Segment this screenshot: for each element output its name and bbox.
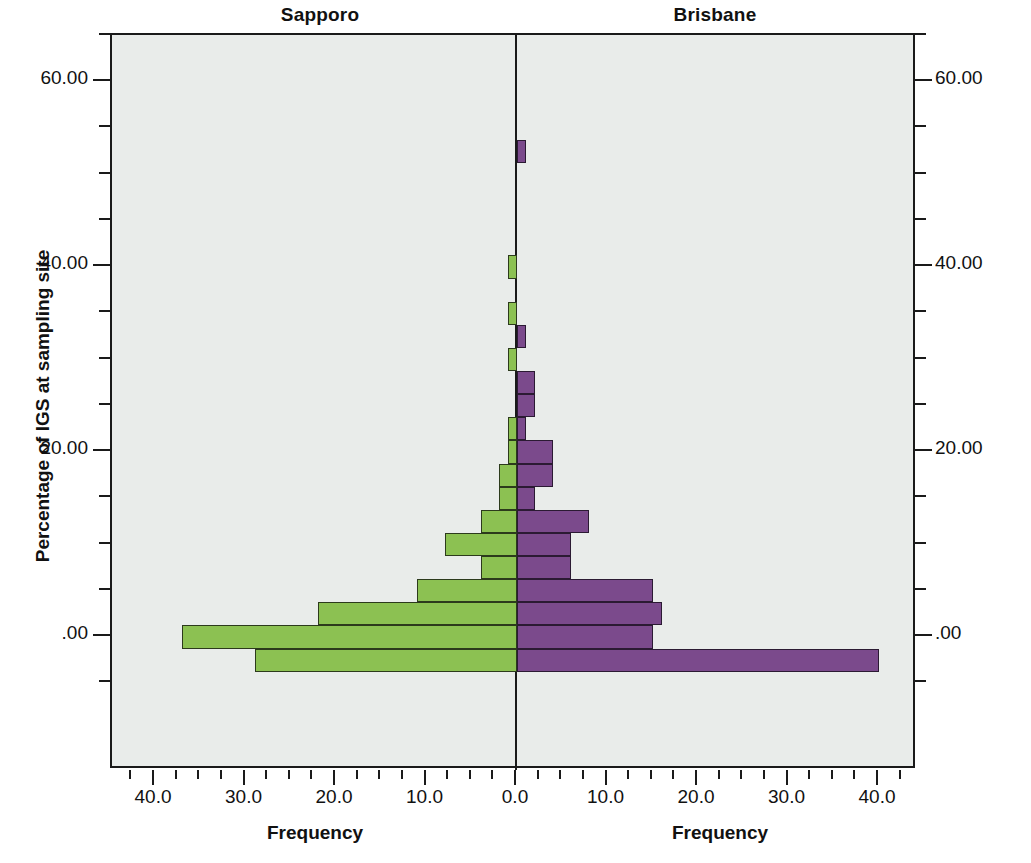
x-axis-minor-tick [808,770,810,779]
y-axis-minor-tick [99,172,110,174]
y-axis-minor-tick [915,125,926,127]
y-axis-major-tick [93,449,110,451]
bar-sapporo [508,255,517,278]
bar-brisbane [517,510,589,533]
y-axis-tick-label-right: 20.00 [935,437,1013,459]
x-axis-tick-label-center: 0.0 [482,786,548,808]
bar-brisbane [517,533,571,556]
x-axis-minor-tick [469,770,471,779]
x-axis-major-tick [243,770,245,785]
y-axis-major-tick [915,264,932,266]
bar-sapporo [499,487,517,510]
x-axis-minor-tick [378,770,380,779]
panel-title-right: Brisbane [600,4,830,26]
x-axis-minor-tick [650,770,652,779]
y-axis-tick-label-right: 60.00 [935,67,1013,89]
x-axis-minor-tick [356,770,358,779]
x-axis-major-tick [876,770,878,785]
x-axis-tick-label-right: 10.0 [573,786,639,808]
bar-sapporo [417,579,517,602]
x-axis-minor-tick [899,770,901,779]
bar-brisbane [517,487,535,510]
y-axis-major-tick [93,634,110,636]
bar-sapporo [481,556,517,579]
y-axis-minor-tick [99,357,110,359]
x-axis-minor-tick [582,770,584,779]
y-axis-minor-tick [915,218,926,220]
plot-area [110,33,915,768]
y-axis-title-left: Percentage of IGS at sampling site [32,246,54,566]
x-axis-minor-tick [446,770,448,779]
x-axis-tick-label-left: 30.0 [211,786,277,808]
y-axis-minor-tick [99,403,110,405]
x-axis-minor-tick [740,770,742,779]
x-axis-minor-tick [220,770,222,779]
x-axis-minor-tick [265,770,267,779]
x-axis-major-tick [695,770,697,785]
bar-brisbane [517,394,535,417]
y-axis-minor-tick [99,125,110,127]
x-axis-tick-label-right: 20.0 [663,786,729,808]
y-axis-minor-tick [915,172,926,174]
y-axis-minor-tick [99,680,110,682]
bar-sapporo [508,440,517,463]
bar-sapporo [182,625,517,648]
bar-brisbane [517,140,526,163]
x-axis-minor-tick [401,770,403,779]
x-axis-tick-label-right: 40.0 [844,786,910,808]
y-axis-tick-label-left: .00 [10,622,88,644]
y-axis-minor-tick [915,33,926,35]
x-axis-title-right: Frequency [610,822,830,844]
bar-sapporo [508,348,517,371]
panel-title-left: Sapporo [205,4,435,26]
bar-sapporo [445,533,517,556]
y-axis-minor-tick [99,33,110,35]
x-axis-minor-tick [129,770,131,779]
y-axis-minor-tick [915,310,926,312]
bar-sapporo [508,302,517,325]
y-axis-minor-tick [915,495,926,497]
y-axis-minor-tick [915,357,926,359]
bar-brisbane [517,649,879,672]
y-axis-major-tick [93,264,110,266]
y-axis-minor-tick [915,680,926,682]
y-axis-minor-tick [99,218,110,220]
x-axis-major-tick [514,770,516,785]
y-axis-minor-tick [99,495,110,497]
y-axis-major-tick [915,634,932,636]
x-axis-minor-tick [537,770,539,779]
bar-brisbane [517,325,526,348]
y-axis-tick-label-left: 60.00 [10,67,88,89]
y-axis-minor-tick [99,310,110,312]
x-axis-minor-tick [831,770,833,779]
x-axis-tick-label-left: 40.0 [120,786,186,808]
bar-brisbane [517,579,653,602]
x-axis-minor-tick [559,770,561,779]
y-axis-minor-tick [915,542,926,544]
y-axis-tick-label-right: .00 [935,622,1013,644]
x-axis-tick-label-right: 30.0 [754,786,820,808]
bar-brisbane [517,440,553,463]
y-axis-tick-label-right: 40.00 [935,252,1013,274]
x-axis-minor-tick [627,770,629,779]
bar-brisbane [517,625,653,648]
x-axis-major-tick [333,770,335,785]
x-axis-tick-label-left: 20.0 [301,786,367,808]
bar-sapporo [508,417,517,440]
bar-sapporo [318,602,517,625]
x-axis-minor-tick [310,770,312,779]
x-axis-tick-label-left: 10.0 [392,786,458,808]
x-axis-title-left: Frequency [205,822,425,844]
x-axis-minor-tick [718,770,720,779]
x-axis-minor-tick [672,770,674,779]
y-axis-minor-tick [915,588,926,590]
x-axis-minor-tick [288,770,290,779]
y-axis-major-tick [915,79,932,81]
x-axis-minor-tick [763,770,765,779]
y-axis-major-tick [93,79,110,81]
bar-brisbane [517,417,526,440]
y-axis-minor-tick [915,403,926,405]
x-axis-major-tick [605,770,607,785]
x-axis-major-tick [786,770,788,785]
x-axis-major-tick [424,770,426,785]
